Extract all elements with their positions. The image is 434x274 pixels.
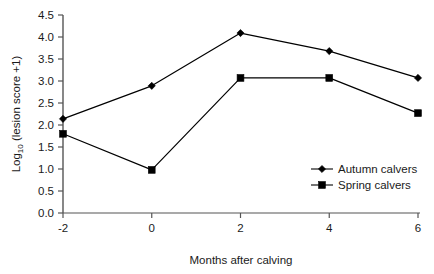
x-tick-label: 6 bbox=[415, 222, 421, 234]
y-axis-title-rest: (lesion score +1) bbox=[10, 56, 22, 145]
line-chart: 0.00.51.01.52.02.53.03.54.04.5 -20246 Au… bbox=[0, 0, 434, 274]
legend-label: Spring calvers bbox=[338, 179, 411, 191]
x-tick-label: 2 bbox=[237, 222, 243, 234]
y-tick-label: 0.0 bbox=[38, 207, 54, 219]
chart-figure: 0.00.51.01.52.02.53.03.54.04.5 -20246 Au… bbox=[0, 0, 434, 274]
square-marker-icon bbox=[326, 75, 333, 82]
y-tick-label: 1.0 bbox=[38, 163, 54, 175]
y-tick-label: 2.5 bbox=[38, 97, 54, 109]
legend-label: Autumn calvers bbox=[338, 163, 418, 175]
square-marker-icon bbox=[60, 130, 67, 137]
y-tick-label: 0.5 bbox=[38, 185, 54, 197]
y-tick-label: 4.0 bbox=[38, 31, 54, 43]
y-tick-label: 2.0 bbox=[38, 119, 54, 131]
square-marker-icon bbox=[148, 166, 155, 173]
y-tick-label: 1.5 bbox=[38, 141, 54, 153]
x-tick-label: -2 bbox=[58, 222, 68, 234]
y-tick-label: 4.5 bbox=[38, 9, 54, 21]
y-tick-label: 3.5 bbox=[38, 53, 54, 65]
square-marker-icon bbox=[319, 182, 326, 189]
x-tick-label: 4 bbox=[326, 222, 333, 234]
x-axis-title: Months after calving bbox=[190, 254, 293, 266]
y-axis-title-main: Log bbox=[10, 153, 22, 172]
x-tick-label: 0 bbox=[149, 222, 155, 234]
square-marker-icon bbox=[237, 75, 244, 82]
y-tick-label: 3.0 bbox=[38, 75, 54, 87]
square-marker-icon bbox=[415, 110, 422, 117]
